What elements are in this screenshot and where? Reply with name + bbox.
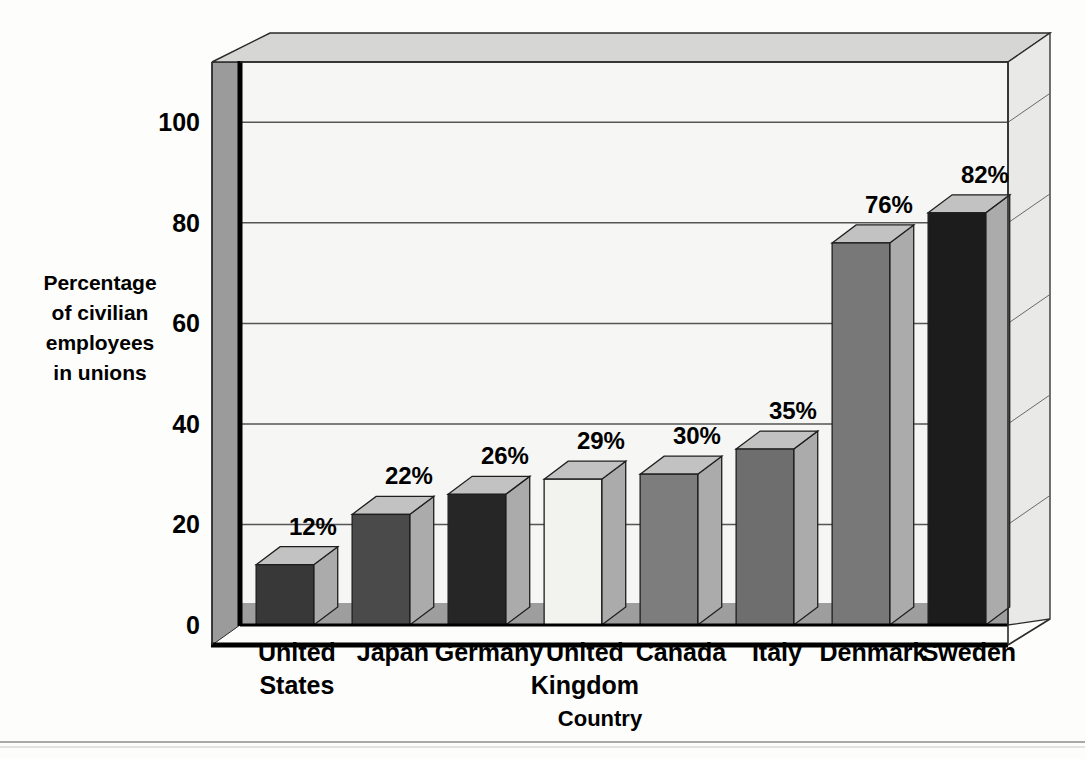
y-axis-title-line: of civilian bbox=[52, 301, 149, 324]
category-label: Sweden bbox=[922, 638, 1016, 666]
y-tick-label: 40 bbox=[172, 410, 200, 438]
y-tick-label: 60 bbox=[172, 309, 200, 337]
bar-united-states bbox=[256, 547, 338, 625]
y-tick-label: 100 bbox=[158, 108, 200, 136]
category-label: Italy bbox=[752, 638, 802, 666]
value-label: 82% bbox=[961, 161, 1009, 188]
bar-denmark bbox=[832, 225, 914, 625]
value-label: 35% bbox=[769, 397, 817, 424]
bar-germany bbox=[448, 476, 530, 625]
x-axis-title: Country bbox=[558, 706, 643, 731]
category-label: Denmark bbox=[819, 638, 926, 666]
bar-canada bbox=[640, 456, 722, 625]
y-axis-title-line: Percentage bbox=[43, 271, 156, 294]
value-label: 12% bbox=[289, 513, 337, 540]
category-label: United bbox=[546, 638, 624, 666]
value-label: 76% bbox=[865, 191, 913, 218]
y-tick-label: 20 bbox=[172, 510, 200, 538]
y-tick-label: 80 bbox=[172, 209, 200, 237]
category-label: Germany bbox=[435, 638, 543, 666]
value-label: 29% bbox=[577, 427, 625, 454]
value-label: 26% bbox=[481, 442, 529, 469]
bar-japan bbox=[352, 496, 434, 625]
category-label: United bbox=[258, 638, 336, 666]
y-axis-title-line: employees bbox=[46, 331, 155, 354]
bar-italy bbox=[736, 431, 818, 625]
y-axis-title-line: in unions bbox=[53, 361, 146, 384]
y-tick-label: 0 bbox=[186, 611, 200, 639]
bar-chart-3d: 020406080100 12%22%26%29%30%35%76%82% Un… bbox=[0, 0, 1085, 759]
bar-united-kingdom bbox=[544, 461, 626, 625]
category-label: States bbox=[259, 671, 334, 699]
chart-page: 020406080100 12%22%26%29%30%35%76%82% Un… bbox=[0, 0, 1085, 759]
bar-sweden bbox=[928, 195, 1010, 625]
value-label: 22% bbox=[385, 462, 433, 489]
value-label: 30% bbox=[673, 422, 721, 449]
category-label: Canada bbox=[636, 638, 727, 666]
category-label: Japan bbox=[357, 638, 429, 666]
category-label: Kingdom bbox=[531, 671, 639, 699]
